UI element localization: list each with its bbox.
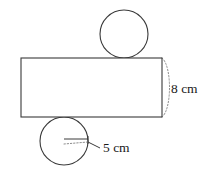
radius-leader-line xyxy=(88,142,100,148)
top-base-circle xyxy=(100,10,148,58)
cylinder-net-figure: 5 cm 8 cm xyxy=(0,0,216,175)
height-dimension-label: 8 cm xyxy=(171,81,198,96)
bottom-base-circle xyxy=(40,117,88,165)
cylinder-end-cap-arc xyxy=(162,58,170,117)
figure-root: 5 cm 8 cm xyxy=(0,0,216,175)
radius-dimension-label: 5 cm xyxy=(103,140,130,155)
lateral-face-rectangle xyxy=(21,58,162,117)
